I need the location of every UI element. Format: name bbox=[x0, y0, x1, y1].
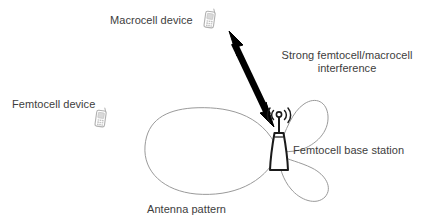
label-interference: Strong femtocell/macrocell interference bbox=[272, 49, 422, 75]
label-interference-line1: Strong femtocell/macrocell bbox=[282, 49, 413, 61]
label-interference-line2: interference bbox=[318, 62, 377, 74]
label-macrocell-device: Macrocell device bbox=[110, 14, 193, 27]
femtocell-phone-icon bbox=[95, 107, 107, 127]
label-femtocell-device: Femtocell device bbox=[12, 98, 95, 111]
macrocell-phone-icon bbox=[204, 8, 216, 28]
diagram-canvas: Macrocell device Femtocell device Strong… bbox=[0, 0, 430, 224]
label-femtocell-base-station: Femtocell base station bbox=[293, 144, 404, 157]
base-station-body bbox=[270, 133, 288, 170]
diagram-vector-layer bbox=[0, 0, 430, 224]
label-antenna-pattern: Antenna pattern bbox=[147, 203, 226, 216]
antenna-main-lobe bbox=[145, 108, 278, 195]
